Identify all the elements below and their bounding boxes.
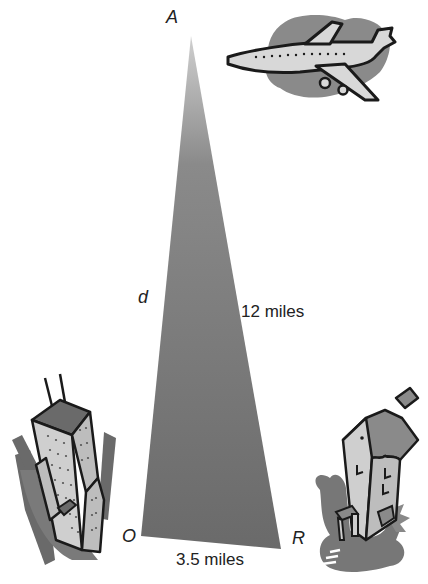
vertex-label-r: R xyxy=(292,529,305,547)
house-icon xyxy=(315,388,418,572)
skyscraper-icon xyxy=(12,374,116,565)
vertex-label-o: O xyxy=(122,527,136,545)
airplane-icon xyxy=(228,15,395,100)
side-label-d: d xyxy=(138,288,148,306)
distance-triangle xyxy=(141,36,281,549)
side-label-hypotenuse: 12 miles xyxy=(241,303,304,320)
vertex-label-a: A xyxy=(166,8,178,26)
side-label-base: 3.5 miles xyxy=(176,551,244,568)
